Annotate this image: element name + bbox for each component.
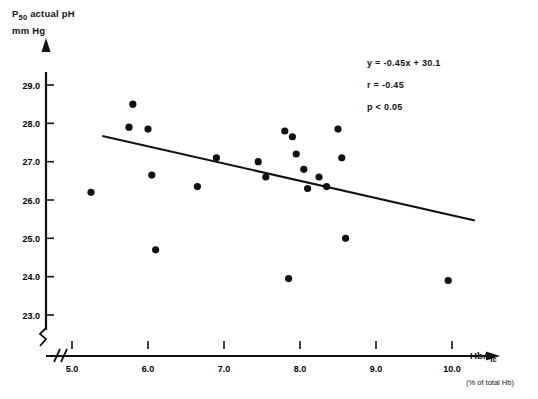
data-point <box>281 127 288 134</box>
data-point <box>293 150 300 157</box>
data-point <box>342 235 349 242</box>
data-point <box>255 158 262 165</box>
data-point <box>315 173 322 180</box>
regression-equation: y = -0.45x + 30.1 <box>367 58 441 68</box>
y-axis-title-line1: P50 actual pH <box>12 8 75 22</box>
correlation-coefficient: r = -0.45 <box>367 80 441 90</box>
data-point <box>144 125 151 132</box>
p-value: p < 0.05 <box>367 102 441 112</box>
y-axis <box>42 38 51 330</box>
x-tick-label: 10.0 <box>443 364 461 374</box>
x-tick-label: 8.0 <box>294 364 307 374</box>
x-axis <box>46 352 500 361</box>
data-point <box>289 133 296 140</box>
y-tick-label: 26.0 <box>22 196 40 206</box>
data-point <box>323 183 330 190</box>
plot-canvas: 23.024.025.026.027.028.029.0 5.06.07.08.… <box>0 0 538 399</box>
data-points <box>87 101 451 285</box>
y-tick-marks <box>46 85 54 315</box>
data-point <box>152 246 159 253</box>
x-tick-label: 9.0 <box>370 364 383 374</box>
x-tick-labels: 5.06.07.08.09.010.0 <box>66 364 461 374</box>
data-point <box>125 124 132 131</box>
y-tick-labels: 23.024.025.026.027.028.029.0 <box>22 81 40 321</box>
y-axis-title: P50 actual pH mm Hg <box>12 8 75 36</box>
data-point <box>148 171 155 178</box>
data-point <box>304 185 311 192</box>
regression-line <box>102 136 474 221</box>
data-point <box>262 173 269 180</box>
data-point <box>213 154 220 161</box>
y-tick-label: 25.0 <box>22 234 40 244</box>
data-point <box>194 183 201 190</box>
data-point <box>300 166 307 173</box>
y-tick-label: 23.0 <box>22 311 40 321</box>
y-tick-label: 24.0 <box>22 272 40 282</box>
data-point <box>87 189 94 196</box>
data-point <box>129 101 136 108</box>
x-tick-label: 5.0 <box>66 364 79 374</box>
data-point <box>338 154 345 161</box>
y-axis-title-line2: mm Hg <box>12 25 75 36</box>
data-point <box>334 125 341 132</box>
scatter-plot-figure: 23.024.025.026.027.028.029.0 5.06.07.08.… <box>0 0 538 399</box>
y-tick-label: 27.0 <box>22 157 40 167</box>
y-tick-label: 28.0 <box>22 119 40 129</box>
data-point <box>445 277 452 284</box>
x-tick-marks <box>72 341 452 349</box>
x-axis-note: (% of total Hb) <box>466 378 514 387</box>
x-axis-title: HbAIc <box>470 350 497 364</box>
y-tick-label: 29.0 <box>22 81 40 91</box>
statistics-annotation: y = -0.45x + 30.1 r = -0.45 p < 0.05 <box>367 58 441 112</box>
x-tick-label: 7.0 <box>218 364 231 374</box>
data-point <box>285 275 292 282</box>
x-tick-label: 6.0 <box>142 364 155 374</box>
